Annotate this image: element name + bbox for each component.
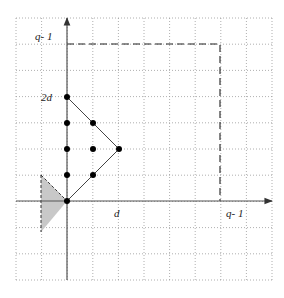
lattice-points <box>64 94 122 204</box>
x-axis-label-q-minus-1: q- 1 <box>226 207 243 219</box>
shaded-triangle-region <box>41 175 67 232</box>
y-axis-label-2d: 2d <box>41 91 53 103</box>
lattice-diagram: q- 1 2d d q- 1 <box>0 0 284 298</box>
y-axis-label-q-minus-1: q- 1 <box>35 30 52 42</box>
dotted-grid <box>16 18 272 280</box>
x-axis-label-d: d <box>114 207 120 219</box>
